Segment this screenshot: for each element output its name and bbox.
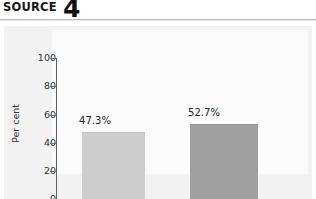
y-tick-80: 80 <box>4 81 56 91</box>
y-tick-20: 20 <box>4 166 56 176</box>
chart-panel: 100 80 60 40 20 0 Per cent 4 <box>4 26 312 199</box>
y-tick-100: 100 <box>4 53 56 63</box>
header-divider-secondary <box>0 20 316 21</box>
y-tick-0: 0 <box>4 194 56 199</box>
y-axis-title: Per cent <box>10 94 21 154</box>
bar-value-men: 47.3% <box>62 115 128 127</box>
bar-series <box>56 58 308 199</box>
bar-women[interactable] <box>190 124 258 199</box>
chart-figure: SOURCE 4 100 80 60 40 20 0 <box>0 0 316 199</box>
source-kicker: SOURCE <box>3 1 57 14</box>
bar-men[interactable] <box>82 132 145 199</box>
bar-value-women: 52.7% <box>168 107 240 119</box>
figure-header: SOURCE 4 <box>0 0 316 22</box>
